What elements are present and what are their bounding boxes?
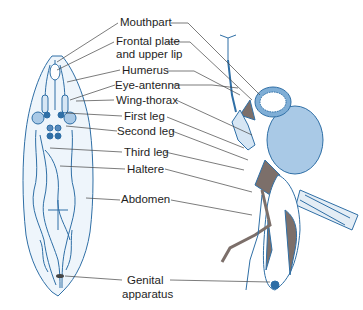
label-wing-thorax: Wing-thorax: [116, 94, 178, 107]
label-frontal-plate: Frontal plate: [116, 35, 180, 48]
label-mouthpart: Mouthpart: [120, 16, 172, 29]
diagram-canvas: [0, 0, 363, 310]
label-eye-antenna: Eye-antenna: [115, 79, 180, 92]
label-humerus: Humerus: [122, 64, 169, 77]
larva-illustration: [23, 56, 93, 296]
label-haltere: Haltere: [127, 163, 164, 176]
label-genital-cont: apparatus: [122, 288, 173, 301]
label-first-leg: First leg: [124, 110, 165, 123]
label-abdomen: Abdomen: [121, 193, 170, 206]
adult-fly-illustration: [220, 35, 358, 290]
label-second-leg: Second leg: [117, 125, 175, 138]
label-frontal-plate-cont: and upper lip: [116, 48, 183, 61]
label-third-leg: Third leg: [124, 146, 169, 159]
label-genital: Genital: [127, 274, 163, 287]
